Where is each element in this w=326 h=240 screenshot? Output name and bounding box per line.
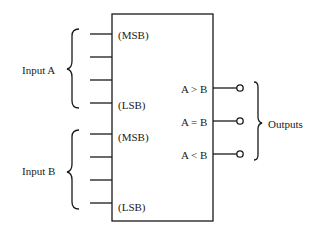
output-pins: [213, 85, 243, 157]
input-a-brace: [67, 29, 79, 108]
input-b-label: Input B: [22, 165, 55, 177]
outputs-brace: [254, 82, 262, 160]
input-a-msb-label: (MSB): [118, 29, 149, 41]
input-a-label: Input A: [22, 64, 55, 76]
input-b-msb-label: (MSB): [118, 131, 149, 143]
input-a-pins: [90, 34, 112, 103]
output-a-eq-b-label: A = B: [181, 116, 207, 128]
input-b-pins: [90, 134, 112, 203]
input-b-lsb-label: (LSB): [118, 201, 146, 213]
input-a-lsb-label: (LSB): [118, 99, 146, 111]
output-a-gt-b-label: A > B: [181, 83, 207, 95]
input-b-brace: [67, 130, 79, 209]
output-a-lt-b-label: A < B: [181, 149, 207, 161]
outputs-label: Outputs: [268, 118, 303, 130]
